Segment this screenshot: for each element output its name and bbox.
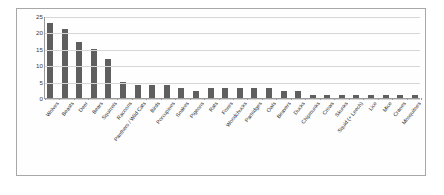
x-axis-category-label: Mice	[382, 101, 393, 113]
bar	[339, 95, 345, 98]
gridline	[45, 17, 420, 18]
x-axis-tick-mark	[305, 98, 306, 100]
y-axis-tick-label: 25	[23, 14, 43, 20]
x-axis-tick-mark	[363, 98, 364, 100]
x-axis-tick-mark	[45, 98, 46, 100]
gridline	[45, 83, 420, 84]
bar	[353, 95, 359, 98]
bar	[178, 88, 184, 98]
bar	[135, 85, 141, 98]
bar	[310, 95, 316, 98]
x-axis-tick-mark	[378, 98, 379, 100]
x-axis-tick-mark	[349, 98, 350, 100]
gridline	[45, 50, 420, 51]
gridline	[45, 66, 420, 67]
x-axis-category-label: Wolves	[46, 101, 61, 118]
bar-series	[45, 17, 420, 98]
bar	[383, 95, 389, 98]
bar	[412, 95, 418, 98]
x-axis-tick-mark	[74, 98, 75, 100]
x-axis-tick-mark	[219, 98, 220, 100]
y-axis-tick-label: 10	[23, 63, 43, 69]
x-axis-category-label: Pigeons	[189, 101, 205, 120]
x-axis-tick-mark	[161, 98, 162, 100]
x-axis-category-label: Deer	[78, 101, 89, 113]
bar	[91, 49, 97, 98]
x-axis-tick-mark	[204, 98, 205, 100]
bar	[149, 85, 155, 98]
bar	[397, 95, 403, 98]
bar	[62, 29, 68, 98]
y-axis-tick-label: 5	[23, 80, 43, 86]
x-axis-tick-mark	[320, 98, 321, 100]
x-axis-category-label: Beavers	[276, 101, 292, 120]
y-axis: 0510152025	[21, 17, 43, 99]
chart-plot-wrapper: 0510152025 WolvesBeastsDeerBearsSquirrel…	[17, 9, 427, 177]
x-axis-tick-mark	[103, 98, 104, 100]
bar	[237, 88, 243, 98]
x-axis-tick-mark	[291, 98, 292, 100]
bar	[368, 95, 374, 98]
bar	[266, 88, 272, 98]
x-axis-tick-mark	[247, 98, 248, 100]
x-axis-tick-mark	[334, 98, 335, 100]
bar	[120, 82, 126, 98]
bar	[281, 91, 287, 98]
plot-area	[44, 17, 420, 99]
x-axis-category-label: Birds	[150, 101, 162, 114]
x-axis-tick-mark	[407, 98, 408, 100]
gridline	[45, 33, 420, 34]
x-axis-tick-mark	[117, 98, 118, 100]
x-axis-tick-mark	[146, 98, 147, 100]
x-axis-tick-mark	[233, 98, 234, 100]
bar	[193, 91, 199, 98]
x-axis-tick-mark	[276, 98, 277, 100]
x-axis-tick-mark	[190, 98, 191, 100]
x-axis-tick-mark	[88, 98, 89, 100]
bar	[251, 88, 257, 98]
y-axis-tick-label: 20	[23, 30, 43, 36]
x-axis-category-label: Lice	[368, 101, 378, 112]
bar	[222, 88, 228, 98]
x-axis-tick-mark	[132, 98, 133, 100]
x-axis-tick-mark	[175, 98, 176, 100]
chart-frame: 0510152025 WolvesBeastsDeerBearsSquirrel…	[16, 8, 426, 176]
x-axis-tick-mark	[392, 98, 393, 100]
x-axis-labels: WolvesBeastsDeerBearsSquirrelsRacoonsPan…	[44, 101, 420, 171]
x-axis-tick-mark	[262, 98, 263, 100]
x-axis-category-label: Beasts	[61, 101, 75, 117]
y-axis-tick-label: 0	[23, 96, 43, 102]
bar	[295, 91, 301, 98]
bar	[208, 88, 214, 98]
y-axis-tick-label: 15	[23, 47, 43, 53]
bar	[164, 85, 170, 98]
bar	[324, 95, 330, 98]
bar	[105, 59, 111, 98]
x-axis-category-label: Owls	[266, 101, 278, 114]
x-axis-tick-mark	[421, 98, 422, 100]
x-axis-tick-mark	[59, 98, 60, 100]
x-axis-category-label: Rats	[209, 101, 220, 113]
